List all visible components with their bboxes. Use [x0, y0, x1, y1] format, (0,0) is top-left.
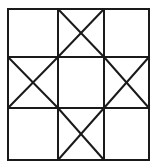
grid-diagram — [0, 0, 160, 168]
cell-x-marks — [8, 9, 149, 160]
